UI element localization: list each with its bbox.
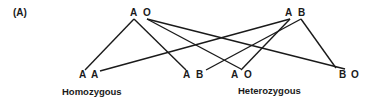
offspring-AB-allele2: B — [196, 70, 203, 80]
parent-left-allele1: A — [130, 8, 137, 18]
heterozygous-label: Heterozygous — [238, 86, 301, 96]
homozygous-label: Homozygous — [62, 87, 122, 97]
offspring-BO-allele2: O — [351, 70, 359, 80]
offspring-AB-allele1: A — [183, 70, 190, 80]
parent-left-allele2: O — [143, 8, 151, 18]
offspring-AO-allele1: A — [231, 70, 238, 80]
offspring-AA-allele2: A — [91, 70, 98, 80]
line-parentA-to-AA — [85, 19, 134, 70]
parent-right-allele2: B — [298, 8, 305, 18]
line-parentB-to-AB — [206, 19, 301, 70]
offspring-AA-allele1: A — [79, 70, 86, 80]
line-parentO-to-AO — [147, 19, 241, 69]
panel-label: (A) — [13, 8, 27, 18]
cross-lines — [0, 0, 373, 103]
offspring-BO-allele1: B — [339, 70, 346, 80]
line-parentA2-to-AA — [100, 19, 290, 71]
line-parentB-to-BO — [301, 19, 336, 68]
parent-right-allele1: A — [285, 8, 292, 18]
offspring-AO-allele2: O — [244, 70, 252, 80]
